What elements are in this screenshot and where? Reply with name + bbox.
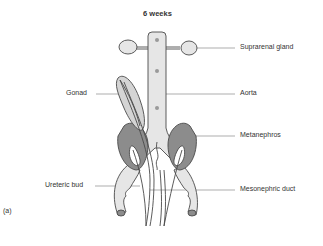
duct-end-left (117, 210, 125, 216)
duct-end-right (188, 210, 196, 216)
suprarenal-gland-left (119, 40, 137, 54)
suprarenal-gland-right (181, 41, 197, 55)
label-suprarenal-gland: Suprarenal gland (240, 43, 293, 50)
mesonephros-left (114, 165, 140, 215)
label-metanephros: Metanephros (240, 131, 281, 138)
panel-label: (a) (3, 207, 12, 214)
aorta-dot-1 (155, 38, 159, 42)
label-ureteric-bud: Ureteric bud (45, 181, 83, 188)
label-gonad: Gonad (66, 89, 87, 96)
aorta-dot-3 (155, 106, 159, 110)
mesonephric-duct-right-outer (160, 170, 162, 226)
label-aorta: Aorta (240, 89, 257, 96)
aorta-dot-2 (155, 69, 159, 73)
urogenital-diagram (0, 0, 323, 246)
anatomy (114, 32, 197, 226)
label-mesonephric-duct: Mesonephric duct (240, 185, 295, 192)
